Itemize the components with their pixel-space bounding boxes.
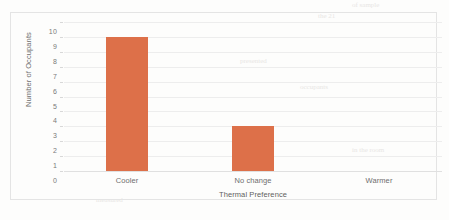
x-axis-tick-label: Warmer bbox=[316, 176, 442, 185]
y-axis-tick-label: 0 bbox=[53, 177, 57, 184]
y-axis-tick-mark bbox=[60, 156, 63, 157]
y-axis-tick-label: 8 bbox=[53, 57, 57, 64]
y-axis-tick-mark bbox=[60, 141, 63, 142]
y-axis-tick-label: 6 bbox=[53, 87, 57, 94]
scan-ghost-text: of sample bbox=[352, 1, 379, 9]
y-axis-tick-mark bbox=[60, 52, 63, 53]
y-axis-tick-label: 2 bbox=[53, 147, 57, 154]
y-axis-tick-mark bbox=[60, 22, 63, 23]
y-axis-tick-label: 4 bbox=[53, 117, 57, 124]
axis-baseline bbox=[64, 171, 442, 172]
scanned-page: of samplethe 21presentedoccupantsin the … bbox=[0, 0, 449, 220]
y-axis-tick-mark bbox=[60, 97, 63, 98]
chart-frame: Number of Occupants 109876543210 CoolerN… bbox=[10, 12, 437, 200]
y-axis-tick-mark bbox=[60, 111, 63, 112]
bar[interactable] bbox=[106, 37, 148, 171]
bar[interactable] bbox=[232, 126, 274, 171]
y-axis-tick-mark bbox=[60, 37, 63, 38]
y-axis-tick-mark bbox=[60, 82, 63, 83]
y-axis-tick-label: 9 bbox=[53, 42, 57, 49]
y-axis-tick-labels: 109876543210 bbox=[35, 22, 61, 171]
y-axis-tick-label: 7 bbox=[53, 72, 57, 79]
y-axis-tick-mark bbox=[60, 126, 63, 127]
x-axis-title: Thermal Preference bbox=[64, 190, 442, 199]
y-axis-tick-label: 3 bbox=[53, 132, 57, 139]
gridline bbox=[64, 22, 442, 23]
y-axis-tick-label: 10 bbox=[49, 28, 57, 35]
y-axis-tick-label: 5 bbox=[53, 102, 57, 109]
y-axis-title: Number of Occupants bbox=[24, 22, 33, 118]
x-axis-tick-label: No change bbox=[190, 176, 316, 185]
y-axis-tick-mark bbox=[60, 171, 63, 172]
y-axis-tick-label: 1 bbox=[53, 162, 57, 169]
x-axis-tick-labels: CoolerNo changeWarmer bbox=[64, 176, 442, 190]
y-axis-tick-mark bbox=[60, 67, 63, 68]
x-axis-tick-label: Cooler bbox=[64, 176, 190, 185]
plot-area bbox=[64, 22, 442, 171]
